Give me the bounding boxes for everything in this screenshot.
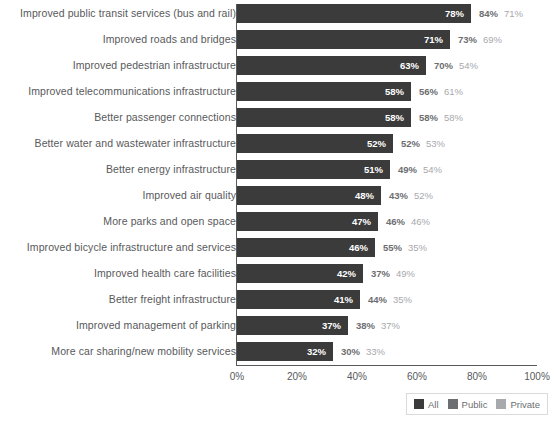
chart-row: Better water and wastewater infrastructu… [0, 134, 554, 160]
value-public: 84% [479, 8, 498, 19]
category-label: Better passenger connections [94, 108, 236, 127]
bar-value-all: 78% [445, 4, 464, 23]
bar-value-all: 58% [385, 82, 404, 101]
chart-rows: Improved public transit services (bus an… [0, 4, 554, 368]
chart-row: Better energy infrastructure51%49%54% [0, 160, 554, 186]
chart-row: Improved bicycle infrastructure and serv… [0, 238, 554, 264]
side-values: 37%49% [371, 264, 415, 283]
chart-row: Improved public transit services (bus an… [0, 4, 554, 30]
category-label: Improved air quality [142, 186, 236, 205]
side-values: 73%69% [458, 30, 502, 49]
value-private: 46% [411, 216, 430, 227]
side-values: 43%52% [389, 186, 433, 205]
bar-value-all: 51% [364, 160, 383, 179]
legend-label: Public [462, 399, 488, 410]
value-private: 54% [459, 60, 478, 71]
category-label: Improved pedestrian infrastructure [73, 56, 236, 75]
legend-swatch-icon [414, 399, 424, 409]
x-tick-label: 60% [407, 371, 427, 382]
category-label: More car sharing/new mobility services [51, 342, 236, 361]
bar-all [237, 30, 450, 49]
bar-value-all: 58% [385, 108, 404, 127]
value-public: 55% [383, 242, 402, 253]
value-private: 49% [396, 268, 415, 279]
category-label: Improved bicycle infrastructure and serv… [27, 238, 236, 257]
chart-row: Improved air quality48%43%52% [0, 186, 554, 212]
side-values: 55%35% [383, 238, 427, 257]
x-tick-label: 20% [287, 371, 307, 382]
value-public: 37% [371, 268, 390, 279]
side-values: 58%58% [419, 108, 463, 127]
value-public: 58% [419, 112, 438, 123]
value-private: 61% [444, 86, 463, 97]
legend-swatch-icon [448, 399, 458, 409]
legend-item-public[interactable]: Public [448, 399, 488, 410]
bar-all [237, 56, 426, 75]
side-values: 56%61% [419, 82, 463, 101]
chart-row: Better freight infrastructure41%44%35% [0, 290, 554, 316]
x-tick-label: 40% [347, 371, 367, 382]
value-public: 44% [368, 294, 387, 305]
value-public: 52% [401, 138, 420, 149]
bar-value-all: 47% [352, 212, 371, 231]
value-private: 58% [444, 112, 463, 123]
value-private: 35% [408, 242, 427, 253]
category-label: Better water and wastewater infrastructu… [35, 134, 236, 153]
category-label: Improved public transit services (bus an… [20, 4, 236, 23]
value-public: 43% [389, 190, 408, 201]
x-axis-line [236, 365, 537, 366]
side-values: 84%71% [479, 4, 523, 23]
bar-value-all: 46% [349, 238, 368, 257]
legend-item-all[interactable]: All [414, 399, 439, 410]
value-private: 54% [423, 164, 442, 175]
chart-legend: AllPublicPrivate [406, 393, 548, 415]
value-private: 69% [483, 34, 502, 45]
chart-row: Better passenger connections58%58%58% [0, 108, 554, 134]
side-values: 30%33% [341, 342, 385, 361]
side-values: 70%54% [434, 56, 478, 75]
value-private: 53% [426, 138, 445, 149]
y-axis-line [236, 4, 237, 366]
bar-value-all: 71% [424, 30, 443, 49]
category-label: Improved management of parking [76, 316, 236, 335]
side-values: 46%46% [386, 212, 430, 231]
value-private: 52% [414, 190, 433, 201]
side-values: 49%54% [398, 160, 442, 179]
category-label: Improved health care facilities [94, 264, 236, 283]
side-values: 44%35% [368, 290, 412, 309]
legend-label: All [428, 399, 439, 410]
value-public: 38% [356, 320, 375, 331]
chart-row: Improved telecommunications infrastructu… [0, 82, 554, 108]
x-tick-label: 0% [230, 371, 244, 382]
bar-value-all: 52% [367, 134, 386, 153]
value-private: 35% [393, 294, 412, 305]
value-public: 73% [458, 34, 477, 45]
value-public: 46% [386, 216, 405, 227]
category-label: Better freight infrastructure [109, 290, 236, 309]
bar-value-all: 42% [337, 264, 356, 283]
chart-row: More parks and open space47%46%46% [0, 212, 554, 238]
value-public: 56% [419, 86, 438, 97]
category-label: Improved roads and bridges [103, 30, 236, 49]
value-public: 70% [434, 60, 453, 71]
value-public: 49% [398, 164, 417, 175]
horizontal-bar-chart: Improved public transit services (bus an… [0, 0, 554, 425]
legend-swatch-icon [496, 399, 506, 409]
x-tick-label: 100% [524, 371, 550, 382]
side-values: 38%37% [356, 316, 400, 335]
chart-row: Improved pedestrian infrastructure63%70%… [0, 56, 554, 82]
category-label: Improved telecommunications infrastructu… [28, 82, 236, 101]
value-public: 30% [341, 346, 360, 357]
value-private: 37% [381, 320, 400, 331]
chart-row: Improved management of parking37%38%37% [0, 316, 554, 342]
legend-item-private[interactable]: Private [496, 399, 540, 410]
value-private: 33% [366, 346, 385, 357]
side-values: 52%53% [401, 134, 445, 153]
chart-row: Improved health care facilities42%37%49% [0, 264, 554, 290]
bar-value-all: 37% [322, 316, 341, 335]
bar-value-all: 63% [400, 56, 419, 75]
category-label: Better energy infrastructure [106, 160, 236, 179]
category-label: More parks and open space [103, 212, 236, 231]
chart-row: Improved roads and bridges71%73%69% [0, 30, 554, 56]
x-tick-label: 80% [467, 371, 487, 382]
